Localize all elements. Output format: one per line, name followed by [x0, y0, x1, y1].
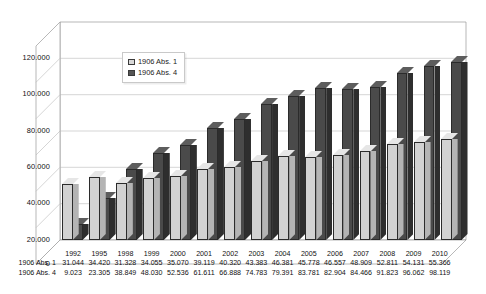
y-tick-80000: 80.000	[0, 126, 50, 135]
table-cell-value: 35.070	[165, 259, 191, 267]
bar	[197, 169, 208, 240]
bar	[224, 167, 235, 240]
table-cell-value: 40.320	[217, 259, 243, 267]
table-cell-value: 34.055	[139, 259, 165, 267]
table-cell-value: 23.305	[86, 269, 112, 277]
bar-side	[299, 96, 305, 240]
table-cell-value: 39.119	[191, 259, 217, 267]
bar-face	[278, 156, 289, 240]
bar	[333, 155, 344, 240]
bar-side	[191, 145, 197, 240]
bar-face	[224, 167, 235, 240]
bar	[89, 177, 100, 240]
bar-side	[425, 142, 431, 240]
bar-side	[110, 198, 116, 240]
table-cell-year: 2000	[165, 250, 191, 258]
table-cell-year: 2010	[427, 250, 453, 258]
bar-side	[462, 62, 468, 240]
bar	[414, 142, 425, 240]
bar-side	[181, 176, 187, 240]
plot-area	[60, 22, 466, 240]
table-cell-value: 43.383	[243, 259, 269, 267]
table-cell-year: 2004	[270, 250, 296, 258]
bar-face	[414, 142, 425, 240]
table-cell-value: 52.536	[165, 269, 191, 277]
table-cell-value: 66.888	[217, 269, 243, 277]
table-cell-value: 38.849	[112, 269, 138, 277]
bar-side	[434, 66, 440, 241]
bar-side	[272, 104, 278, 240]
table-cell-value: 52.811	[374, 259, 400, 267]
bar-side	[100, 177, 106, 240]
bar-face	[170, 176, 181, 240]
bar-side	[380, 87, 386, 240]
bar-face	[89, 177, 100, 240]
bar	[278, 156, 289, 240]
table-cell-value: 83.781	[296, 269, 322, 277]
bar-side	[235, 167, 241, 240]
bar-side	[245, 119, 251, 241]
bar-face	[143, 178, 154, 240]
bar-face	[333, 155, 344, 240]
table-cell-value: 46.381	[270, 259, 296, 267]
bar-face	[387, 144, 398, 240]
table-cell-value: 48.030	[139, 269, 165, 277]
table-row: 1906 Abs. 4 9.02323.30538.84948.03052.53…	[0, 268, 486, 278]
legend-label-series1: 1906 Abs. 1	[138, 57, 177, 66]
bar	[387, 144, 398, 240]
table-cell-value: 98.119	[427, 269, 453, 277]
bar	[170, 176, 181, 240]
table-cell-year: 2002	[217, 250, 243, 258]
table-cell-year: 2005	[296, 250, 322, 258]
legend-item-series1: 1906 Abs. 1	[128, 56, 177, 67]
table-cell-year: 2008	[374, 250, 400, 258]
table-cell-value: 82.904	[322, 269, 348, 277]
bar-series-group	[60, 22, 466, 240]
data-table: 1992199519981999200020012002200320042005…	[0, 249, 486, 278]
table-cell-value: 9.023	[60, 269, 86, 277]
bar-side	[154, 178, 160, 240]
bar-side	[370, 151, 376, 240]
bar-face	[251, 161, 262, 240]
bar-face	[197, 169, 208, 240]
table-row-label-series1: 1906 Abs. 1	[0, 259, 60, 267]
bar	[143, 178, 154, 240]
bar-side	[407, 73, 413, 240]
bar-face	[62, 184, 73, 240]
bar	[305, 157, 316, 240]
table-cell-year: 1992	[60, 250, 86, 258]
table-cell-value: 84.466	[348, 269, 374, 277]
bar-face	[360, 151, 371, 240]
bar-side	[353, 89, 359, 240]
bar	[360, 151, 371, 240]
y-tick-60000: 60.000	[0, 162, 50, 171]
table-cell-year: 2003	[243, 250, 269, 258]
bar-face	[116, 183, 127, 240]
table-row-label-series4: 1906 Abs. 4	[0, 269, 60, 277]
table-cell-year: 2007	[348, 250, 374, 258]
y-tick-100000: 100.000	[0, 89, 50, 98]
bar-side	[343, 155, 349, 240]
table-cell-value: 61.611	[191, 269, 217, 277]
chart-container: 120.000 100.000 80.000 60.000 40.000 20.…	[0, 0, 486, 294]
table-cell-value: 31.044	[60, 259, 86, 267]
table-cell-value: 31.328	[112, 259, 138, 267]
bar-face	[441, 139, 452, 240]
chart-legend: 1906 Abs. 1 1906 Abs. 4	[122, 52, 185, 83]
y-tick-120000: 120.000	[0, 53, 50, 62]
table-cell-value: 48.909	[348, 259, 374, 267]
bar-side	[127, 183, 133, 240]
bar	[62, 184, 73, 240]
table-cell-value: 96.062	[400, 269, 426, 277]
table-cell-value: 74.783	[243, 269, 269, 277]
table-cell-value: 55.366	[427, 259, 453, 267]
legend-item-series4: 1906 Abs. 4	[128, 67, 177, 78]
table-cell-value: 45.778	[296, 259, 322, 267]
legend-swatch-series1-icon	[128, 59, 135, 65]
bar	[441, 139, 452, 240]
table-cell-year: 1999	[139, 250, 165, 258]
bar-side	[262, 161, 268, 240]
table-cell-value: 34.420	[86, 259, 112, 267]
bar-side	[218, 128, 224, 240]
bar-side	[73, 184, 79, 240]
